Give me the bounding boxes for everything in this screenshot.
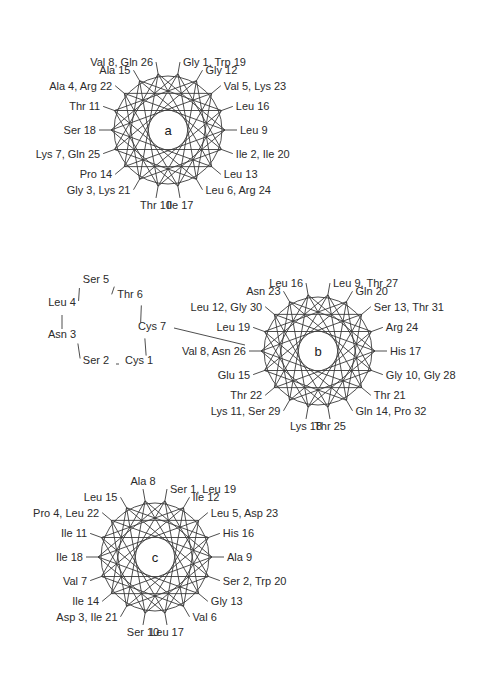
residue-label: Leu 5, Asp 23 xyxy=(211,507,278,519)
residue-label: Ala 9 xyxy=(227,551,252,563)
residue-label: Gly 10, Gly 28 xyxy=(386,369,456,381)
residue-label: Lys 7, Gln 25 xyxy=(36,148,100,160)
loop-residue-label: Leu 4 xyxy=(48,296,76,308)
residue-label: Pro 4, Leu 22 xyxy=(33,507,99,519)
residue-label: Gly 12 xyxy=(206,64,238,76)
residue-label: Ala 8 xyxy=(130,475,155,487)
residue-label: Thr 22 xyxy=(230,389,262,401)
panel-letter-c: c xyxy=(152,550,159,565)
residue-label: Ile 11 xyxy=(61,527,87,539)
residue-label: Val 8, Gln 26 xyxy=(90,56,153,68)
residue-label: Ser 2, Trp 20 xyxy=(223,575,287,587)
residue-label: Ser 13, Thr 31 xyxy=(374,301,444,313)
residue-label: Asp 3, Ile 21 xyxy=(56,611,117,623)
residue-label: His 16 xyxy=(223,527,254,539)
figure-canvas: Gly 1, Trp 19Gly 12Val 5, Lys 23Leu 16Le… xyxy=(0,0,494,679)
residue-label: Glu 15 xyxy=(218,369,250,381)
residue-label: Ile 14 xyxy=(72,595,99,607)
residue-label: Leu 16 xyxy=(236,100,270,112)
residue-label: Ile 12 xyxy=(193,491,220,503)
residue-label: Gly 3, Lys 21 xyxy=(67,184,131,196)
residue-label: Val 7 xyxy=(63,575,87,587)
residue-label: Leu 9 xyxy=(240,124,268,136)
residue-label: Pro 14 xyxy=(80,168,112,180)
residue-label: Ala 4, Arg 22 xyxy=(49,80,112,92)
residue-label: Val 8, Asn 26 xyxy=(182,345,246,357)
loop-residue-label: Asn 3 xyxy=(48,328,76,340)
residue-label: Ser 10 xyxy=(127,626,159,638)
residue-label: Leu 13 xyxy=(224,168,258,180)
residue-label: Gln 14, Pro 32 xyxy=(356,405,427,417)
residue-label: Leu 19 xyxy=(217,321,251,333)
loop-residue-label: Ser 5 xyxy=(83,273,109,285)
residue-label: Lys 11, Ser 29 xyxy=(211,405,281,417)
residue-label: Val 6 xyxy=(193,611,217,623)
panel-letter-a: a xyxy=(164,123,172,138)
residue-label: Lys 18 xyxy=(290,420,322,432)
loop-residue-label: Thr 6 xyxy=(117,288,143,300)
residue-label: Val 5, Lys 23 xyxy=(224,80,286,92)
loop-residue-label: Ser 2 xyxy=(83,354,109,366)
residue-label: Leu 15 xyxy=(84,491,118,503)
residue-label: His 17 xyxy=(390,345,421,357)
loop-residue-label: Cys 1 xyxy=(125,354,153,366)
residue-label: Thr 11 xyxy=(69,100,100,112)
residue-label: Ile 2, Ile 20 xyxy=(236,148,290,160)
residue-label: Gly 13 xyxy=(211,595,243,607)
helical-wheel-figure: Gly 1, Trp 19Gly 12Val 5, Lys 23Leu 16Le… xyxy=(0,0,494,679)
residue-label: Ile 18 xyxy=(56,551,83,563)
panel-letter-b: b xyxy=(314,344,321,359)
residue-label: Leu 12, Gly 30 xyxy=(191,301,263,313)
residue-label: Leu 6, Arg 24 xyxy=(206,184,271,196)
residue-label: Leu 16 xyxy=(269,277,303,289)
residue-label: Thr 21 xyxy=(374,389,406,401)
residue-label: Thr 10 xyxy=(140,199,172,211)
residue-label: Ser 18 xyxy=(64,124,96,136)
loop-residue-label: Cys 7 xyxy=(138,320,166,332)
residue-label: Arg 24 xyxy=(386,321,418,333)
residue-label: Gln 20 xyxy=(356,285,388,297)
